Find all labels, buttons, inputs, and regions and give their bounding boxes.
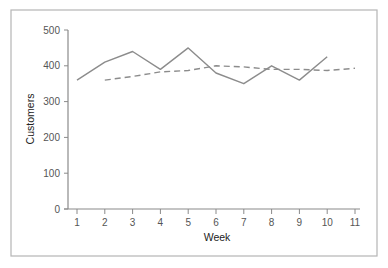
y-tick-label: 100 xyxy=(43,168,60,179)
x-tick-label: 3 xyxy=(130,217,136,228)
y-tick-label: 500 xyxy=(43,25,60,36)
y-tick-label: 300 xyxy=(43,96,60,107)
y-axis-title: Customers xyxy=(24,94,36,145)
line-chart: 0100200300400500 1234567891011 Week Cust… xyxy=(0,0,388,268)
x-tick-label: 11 xyxy=(350,217,361,228)
x-axis-title: Week xyxy=(204,231,231,243)
x-tick-label: 5 xyxy=(185,217,191,228)
y-tick-label: 0 xyxy=(54,204,60,215)
x-tick-label: 8 xyxy=(269,217,275,228)
x-tick-label: 4 xyxy=(158,217,164,228)
x-tick-label: 10 xyxy=(322,217,334,228)
y-tick-label: 400 xyxy=(43,60,60,71)
x-tick-label: 1 xyxy=(74,217,80,228)
x-tick-label: 2 xyxy=(102,217,108,228)
y-tick-label: 200 xyxy=(43,132,60,143)
x-tick-label: 9 xyxy=(297,217,303,228)
x-tick-label: 6 xyxy=(213,217,219,228)
x-tick-label: 7 xyxy=(241,217,247,228)
